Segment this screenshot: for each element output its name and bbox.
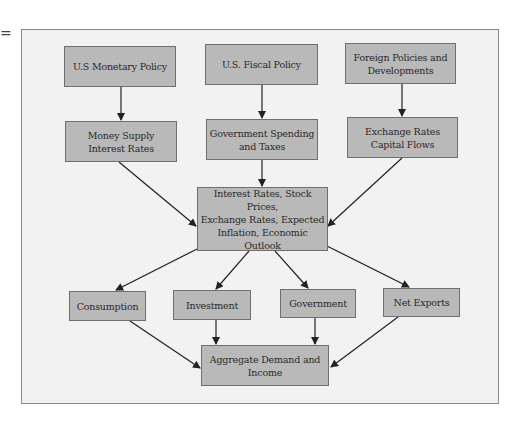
node-label: Government Spending and Taxes [210,127,314,153]
node-label: Exchange Rates Capital Flows [365,125,440,151]
arrow-center-to-netexports [327,246,409,287]
node-net-exports: Net Exports [383,288,460,317]
arrow-money-to-center [119,162,196,226]
arrow-consumption-to-aggregate [130,321,200,368]
node-consumption: Consumption [69,291,146,321]
node-label: Aggregate Demand and Income [210,353,320,379]
node-money-supply: Money Supply Interest Rates [65,121,177,162]
node-monetary-policy: U.S Monetary Policy [64,46,176,87]
node-label: Foreign Policies and Developments [354,51,448,77]
node-label: Investment [186,299,238,312]
node-label: U.S Monetary Policy [73,60,167,73]
arrow-exchange-to-center [328,158,402,226]
node-gov-spending: Government Spending and Taxes [206,119,318,160]
node-label: U.S. Fiscal Policy [222,58,301,71]
node-label: Interest Rates, Stock Prices, Exchange R… [198,187,327,252]
node-fiscal-policy: U.S. Fiscal Policy [205,44,318,85]
node-exchange-rates: Exchange Rates Capital Flows [347,117,458,158]
node-foreign-policies: Foreign Policies and Developments [345,43,456,84]
node-center: Interest Rates, Stock Prices, Exchange R… [197,187,328,251]
node-label: Government [289,297,347,310]
node-investment: Investment [173,290,251,320]
arrow-center-to-government [275,251,308,288]
arrow-center-to-investment [216,251,249,289]
node-aggregate-demand: Aggregate Demand and Income [201,345,329,386]
node-label: Consumption [77,300,139,313]
node-label: Money Supply Interest Rates [88,129,154,155]
node-label: Net Exports [394,296,450,309]
arrow-netexports-to-aggregate [331,317,398,367]
arrow-center-to-consumption [116,249,197,290]
node-government: Government [280,289,356,318]
